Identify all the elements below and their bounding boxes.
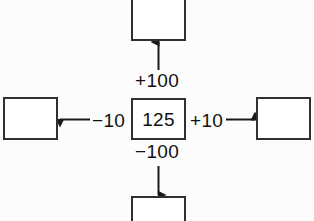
- node-box-bottom[interactable]: [131, 196, 186, 221]
- center-value-label: 125: [133, 110, 184, 129]
- node-box-center[interactable]: 125: [131, 98, 186, 140]
- node-box-right[interactable]: [256, 97, 311, 140]
- node-box-top[interactable]: [131, 0, 186, 41]
- edge-label-plus-ten: +10: [190, 111, 223, 130]
- edge-label-plus-hundred: +100: [0, 71, 314, 90]
- edge-label-minus-ten: −10: [92, 111, 125, 130]
- node-box-left[interactable]: [3, 97, 58, 140]
- diagram-canvas: 125 +100 −100 −10 +10: [0, 0, 314, 221]
- edge-label-minus-hundred: −100: [0, 142, 314, 161]
